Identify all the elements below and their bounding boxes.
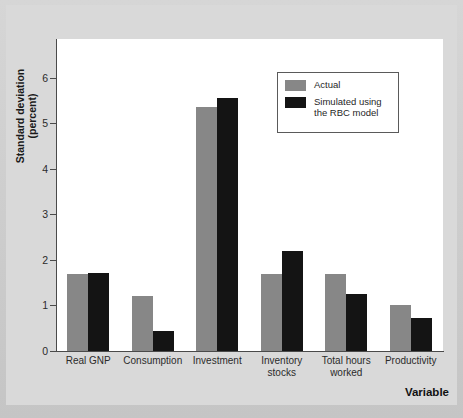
- legend-entry-actual: Actual: [285, 79, 391, 91]
- legend-label-actual: Actual: [314, 79, 340, 90]
- y-axis-tick-label: 4: [26, 164, 48, 175]
- y-axis-tick: [50, 305, 57, 306]
- y-axis-tick-label: 5: [26, 118, 48, 129]
- legend-label-simulated: Simulated using the RBC model: [314, 96, 382, 118]
- x-axis-title: Variable: [405, 386, 449, 398]
- y-axis-tick-label: 0: [26, 346, 48, 357]
- bar-simulated: [88, 273, 109, 351]
- bar-actual: [390, 305, 411, 351]
- bar-simulated: [411, 318, 432, 351]
- x-axis-line: [56, 351, 444, 352]
- bar-simulated: [153, 331, 174, 351]
- bar-actual: [325, 274, 346, 351]
- y-axis-tick: [50, 214, 57, 215]
- bar-simulated: [217, 98, 238, 351]
- bar-actual: [261, 274, 282, 351]
- legend-entry-simulated: Simulated using the RBC model: [285, 96, 391, 118]
- chart-figure: Standard deviation (percent) 0123456 Rea…: [0, 0, 463, 418]
- legend-swatch-simulated: [285, 97, 306, 108]
- y-axis-tick-label: 2: [26, 255, 48, 266]
- bar-actual: [132, 296, 153, 351]
- bar-simulated: [346, 294, 367, 351]
- y-axis-tick: [50, 78, 57, 79]
- y-axis-tick: [50, 260, 57, 261]
- bar-simulated: [282, 251, 303, 351]
- legend-swatch-actual: [285, 80, 306, 91]
- chart-legend: Actual Simulated using the RBC model: [277, 72, 399, 133]
- y-axis-tick-label: 3: [26, 209, 48, 220]
- y-axis-tick: [50, 351, 57, 352]
- y-axis-tick: [50, 169, 57, 170]
- bar-actual: [196, 107, 217, 351]
- x-axis-label: Productivity: [373, 355, 450, 367]
- y-axis-tick-label: 6: [26, 72, 48, 83]
- bar-actual: [67, 274, 88, 351]
- y-axis-tick: [50, 123, 57, 124]
- y-axis-tick-label: 1: [26, 300, 48, 311]
